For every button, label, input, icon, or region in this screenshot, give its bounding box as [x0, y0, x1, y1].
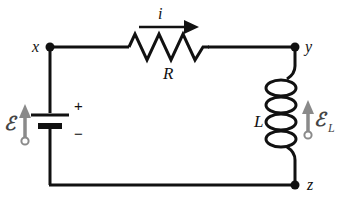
resistor-label: R — [163, 65, 173, 82]
wire-right-upper — [287, 47, 295, 79]
inductor-emf-arrow-icon — [302, 100, 314, 139]
current-arrow-icon — [139, 20, 199, 34]
node-label-y: y — [305, 39, 312, 55]
node-dot-y — [291, 43, 300, 52]
node-dot-x — [46, 43, 55, 52]
wire-right-lower — [287, 147, 295, 185]
node-dot-z — [291, 181, 300, 190]
battery-minus-sign: − — [74, 126, 83, 141]
node-label-x: x — [32, 39, 39, 55]
circuit-canvas — [0, 0, 341, 207]
battery-emf-label: ℰ — [4, 114, 16, 133]
inductor-coil-icon — [266, 80, 296, 147]
battery-plus-sign: + — [74, 98, 83, 113]
resistor-zigzag-icon — [129, 34, 209, 60]
inductor-label: L — [254, 113, 263, 130]
battery-emf-arrow-icon — [19, 104, 31, 145]
circuit-diagram: x y z R L i + − ℰ ℰ L — [0, 0, 341, 207]
current-label: i — [158, 6, 162, 22]
inductor-emf-label: ℰ — [314, 110, 326, 129]
node-label-z: z — [307, 177, 313, 193]
inductor-emf-subscript: L — [328, 122, 335, 134]
